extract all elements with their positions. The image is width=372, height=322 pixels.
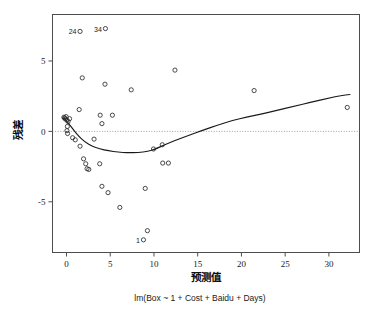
data-point (118, 205, 122, 209)
residuals-vs-fitted-plot: 50-5 051015202530 24341 预测值 残差 lm(Box ~ … (0, 0, 372, 322)
loess-smoother-curve (63, 94, 349, 152)
data-point (173, 68, 177, 72)
data-point (80, 76, 84, 80)
data-point (78, 144, 82, 148)
data-point (345, 105, 349, 109)
y-tick-label: 0 (41, 127, 46, 137)
outlier-point-labels: 24341 (69, 26, 140, 244)
data-point (161, 161, 165, 165)
data-point (98, 113, 102, 117)
loess-line (63, 94, 349, 152)
x-tick-label: 5 (108, 259, 113, 269)
data-point (100, 122, 104, 126)
data-point (141, 238, 145, 242)
x-tick-label: 0 (64, 259, 69, 269)
point-label-24: 24 (69, 28, 77, 35)
data-point (252, 88, 256, 92)
data-point (129, 88, 133, 92)
x-tick-label: 10 (149, 259, 159, 269)
x-tick-label: 15 (193, 259, 203, 269)
point-label-1: 1 (136, 237, 140, 244)
data-point (84, 162, 88, 166)
data-point (81, 157, 85, 161)
x-tick-label: 20 (237, 259, 247, 269)
x-tick-label: 30 (324, 259, 334, 269)
data-point (98, 162, 102, 166)
data-points-group (62, 26, 350, 241)
data-point (145, 229, 149, 233)
data-point (92, 137, 96, 141)
y-tick-label: 5 (41, 56, 46, 66)
data-point (77, 107, 81, 111)
data-point (78, 29, 82, 33)
data-point (103, 82, 107, 86)
x-axis-ticks: 051015202530 (64, 253, 334, 269)
x-tick-label: 25 (281, 259, 291, 269)
data-point (65, 131, 69, 135)
y-axis-ticks: 50-5 (38, 56, 53, 207)
y-tick-label: -5 (38, 197, 46, 207)
data-point (100, 184, 104, 188)
data-point (65, 124, 69, 128)
y-axis-title: 残差 (12, 119, 24, 140)
plot-canvas: 50-5 051015202530 24341 预测值 残差 lm(Box ~ … (0, 0, 372, 322)
data-point (110, 113, 114, 117)
point-label-34: 34 (94, 26, 102, 33)
data-point (106, 191, 110, 195)
data-point (103, 26, 107, 30)
x-axis-title: 预测值 (191, 271, 222, 283)
plot-subtitle: lm(Box ~ 1 + Cost + Baidu + Days) (134, 293, 266, 303)
data-point (143, 186, 147, 190)
plot-frame-group (53, 15, 360, 253)
data-point (166, 161, 170, 165)
plot-frame (53, 15, 360, 253)
